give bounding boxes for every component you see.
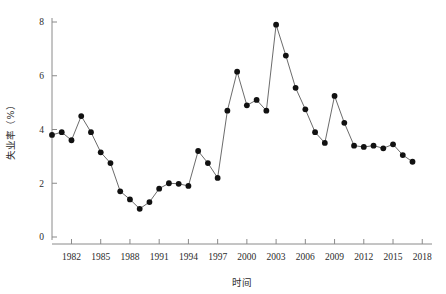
data-point-marker (332, 93, 338, 99)
data-point-marker (59, 129, 65, 135)
data-point-marker (215, 175, 221, 181)
data-point-marker (410, 159, 416, 165)
data-point-marker (263, 108, 269, 114)
data-point-marker (390, 141, 396, 147)
data-point-marker (156, 186, 162, 192)
x-tick-label: 2003 (267, 252, 286, 262)
data-point-marker (224, 108, 230, 114)
data-point-marker (293, 85, 299, 91)
data-point-marker (400, 152, 406, 158)
data-point-marker (205, 160, 211, 166)
x-tick-label: 2012 (354, 252, 373, 262)
data-point-marker (88, 129, 94, 135)
x-tick-label: 1994 (179, 252, 198, 262)
data-point-marker (147, 199, 153, 205)
data-point-marker (341, 120, 347, 126)
data-point-marker (127, 196, 133, 202)
data-point-marker (108, 160, 114, 166)
data-point-marker (98, 149, 104, 155)
x-tick-label: 1985 (91, 252, 110, 262)
x-tick-label: 2015 (384, 252, 403, 262)
x-tick-label: 1991 (150, 252, 169, 262)
data-point-marker (166, 180, 172, 186)
data-point-marker (49, 132, 55, 138)
x-axis-title: 时间 (232, 277, 252, 288)
x-tick-label: 2006 (296, 252, 315, 262)
x-tick-label: 1982 (62, 252, 81, 262)
y-tick-label: 0 (39, 232, 44, 242)
data-point-marker (312, 129, 318, 135)
y-axis-ticks: 02468 (39, 17, 57, 242)
data-point-marker (254, 97, 260, 103)
data-point-marker (361, 144, 367, 150)
y-axis-title: 失业率（%） (5, 100, 16, 159)
chart-figure: 02468 1982198519881991199419972000200320… (0, 0, 446, 294)
x-tick-label: 2009 (325, 252, 344, 262)
data-point-marker (244, 102, 250, 108)
series-markers (49, 22, 415, 212)
x-tick-label: 2018 (413, 252, 432, 262)
y-tick-label: 8 (39, 17, 44, 27)
series-line-unemployment (52, 25, 413, 209)
data-point-marker (302, 106, 308, 112)
data-point-marker (69, 137, 75, 143)
data-point-marker (195, 148, 201, 154)
data-point-marker (322, 140, 328, 146)
data-point-marker (380, 145, 386, 151)
x-tick-label: 1988 (120, 252, 139, 262)
data-point-marker (371, 143, 377, 149)
data-point-marker (137, 206, 143, 212)
unemployment-rate-line-chart: 02468 1982198519881991199419972000200320… (0, 0, 446, 294)
data-point-marker (176, 181, 182, 187)
y-tick-label: 4 (39, 125, 44, 135)
data-point-marker (78, 113, 84, 119)
y-tick-label: 2 (39, 179, 44, 189)
y-axis: 02468 (39, 17, 57, 242)
x-axis: 1982198519881991199419972000200320062009… (52, 239, 432, 262)
data-point-marker (273, 22, 279, 28)
x-tick-label: 1997 (208, 252, 227, 262)
data-point-marker (234, 69, 240, 75)
x-axis-ticks: 1982198519881991199419972000200320062009… (62, 239, 432, 262)
x-tick-label: 2000 (237, 252, 256, 262)
y-tick-label: 6 (39, 71, 44, 81)
data-point-marker (283, 53, 289, 59)
data-point-marker (117, 188, 123, 194)
data-point-marker (351, 143, 357, 149)
data-point-marker (186, 183, 192, 189)
